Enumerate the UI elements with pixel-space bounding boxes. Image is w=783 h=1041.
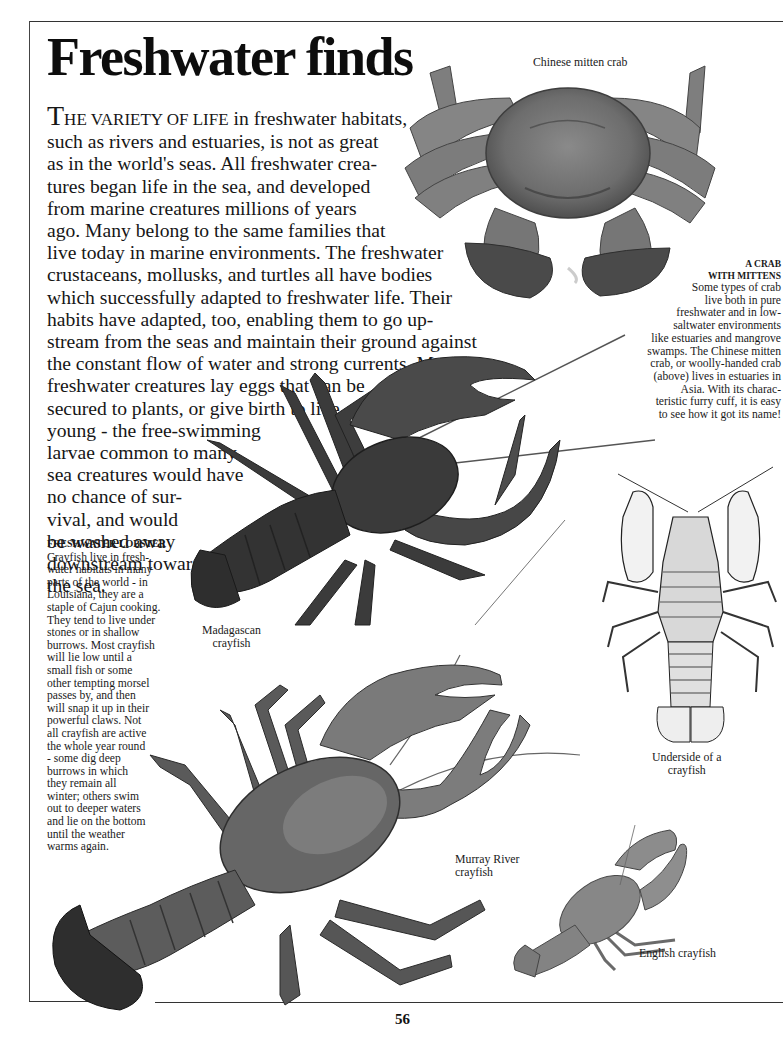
intro-line: tures began life in the sea, and develop…	[47, 176, 477, 198]
intro-first-line: THE VARIETY OF LIFE in freshwater habita…	[47, 105, 477, 131]
intro-line: in freshwater habitats,	[229, 108, 407, 129]
intro-line: from marine creatures millions of years	[47, 198, 477, 220]
intro-line: ago. Many belong to the same families th…	[47, 220, 477, 242]
madagascan-crayfish-label: Madagascan crayfish	[202, 624, 261, 649]
chinese-mitten-crab-label: Chinese mitten crab	[533, 56, 627, 69]
madagascan-label-line: Madagascan	[202, 624, 261, 637]
sidebar-caption-line: stones or in shallow	[47, 627, 197, 640]
madagascan-label-line: crayfish	[202, 637, 261, 650]
crab-caption-line: Some types of crab	[561, 282, 781, 295]
english-crayfish-label: English crayfish	[639, 947, 716, 960]
frame-top-rule	[29, 21, 783, 22]
freshwater-lobster-heading: FRESHWATER LOBSTER	[47, 538, 197, 551]
underside-crayfish-label: Underside of a crayfish	[652, 751, 721, 776]
crab-caption-line: saltwater environments	[561, 320, 781, 333]
sidebar-caption-line: staple of Cajun cooking.	[47, 602, 197, 615]
underside-label-line: Underside of a	[652, 751, 721, 764]
intro-line: which successfully adapted to freshwater…	[47, 287, 477, 309]
smallcaps-lead: HE VARIETY OF LIFE	[64, 110, 229, 129]
crab-caption-heading-line: A CRAB	[561, 258, 781, 270]
intro-line: such as rivers and estuaries, is not as …	[47, 131, 477, 153]
intro-line: crustaceans, mollusks, and turtles all h…	[47, 264, 477, 286]
sidebar-caption-line: water habitats in many	[47, 564, 197, 577]
intro-line: habits have adapted, too, enabling them …	[47, 309, 477, 331]
intro-line: as in the world's seas. All freshwater c…	[47, 153, 477, 175]
underside-label-line: crayfish	[652, 764, 721, 777]
murray-river-crayfish-photo	[40, 655, 560, 1020]
crayfish-underside-illustration	[598, 462, 783, 747]
crab-caption-line: like estuaries and mangrove	[561, 333, 781, 346]
intro-line: live today in marine environments. The f…	[47, 242, 477, 264]
page-title: Freshwater finds	[47, 30, 413, 84]
drop-cap: T	[47, 100, 64, 131]
madagascan-crayfish-photo	[185, 345, 655, 625]
page-number: 56	[395, 1011, 410, 1028]
frame-left-rule	[29, 21, 30, 1002]
